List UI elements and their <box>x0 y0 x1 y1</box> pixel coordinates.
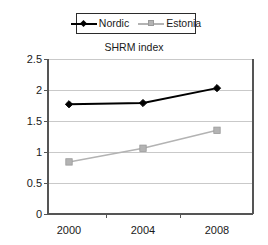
gridlines <box>48 59 253 214</box>
data-point-nordic-2008 <box>213 85 220 92</box>
plot-area <box>48 59 253 214</box>
data-point-nordic-2004 <box>139 99 146 106</box>
y-tick-label: 1 <box>2 147 42 158</box>
square-marker-icon <box>148 20 154 26</box>
chart-legend: Nordic Estonia <box>76 13 196 34</box>
axis-lines <box>44 59 253 214</box>
legend-label-nordic: Nordic <box>99 18 129 29</box>
legend-label-estonia: Estonia <box>166 18 201 29</box>
square-marker-icon <box>140 145 146 151</box>
legend-entry-nordic: Nordic <box>71 18 129 29</box>
y-tick-label: 2.5 <box>2 54 42 65</box>
square-marker-icon <box>214 127 220 133</box>
y-tick-label: 0 <box>2 209 42 220</box>
diamond-marker-icon <box>65 101 72 108</box>
square-marker-icon <box>66 159 72 165</box>
series-layer <box>65 85 220 166</box>
data-point-nordic-2000 <box>65 101 72 108</box>
shrm-index-line-chart: Nordic Estonia SHRM index 00.511.522.5 2… <box>0 0 268 245</box>
plot-canvas <box>48 59 253 214</box>
chart-title: SHRM index <box>0 41 268 53</box>
data-point-estonia-2004 <box>140 145 146 151</box>
legend-swatch-estonia <box>138 19 164 29</box>
y-tick-label: 2 <box>2 85 42 96</box>
data-point-estonia-2008 <box>214 127 220 133</box>
data-point-estonia-2000 <box>66 159 72 165</box>
diamond-marker-icon <box>80 19 87 26</box>
diamond-marker-icon <box>213 85 220 92</box>
legend-entry-estonia: Estonia <box>138 18 201 29</box>
y-tick-label: 0.5 <box>2 178 42 189</box>
x-tick-label: 2008 <box>187 225 247 236</box>
diamond-marker-icon <box>139 99 146 106</box>
x-tick-label: 2000 <box>39 225 99 236</box>
x-tick-label: 2004 <box>113 225 173 236</box>
legend-swatch-nordic <box>71 19 97 29</box>
y-tick-label: 1.5 <box>2 116 42 127</box>
